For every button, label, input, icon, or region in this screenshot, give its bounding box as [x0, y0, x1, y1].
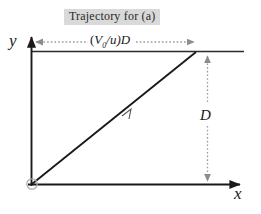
figure-title: Trajectory for (a) — [64, 9, 160, 25]
span-label-distance: D — [121, 32, 130, 47]
trajectory-figure: Trajectory for (a) y x (V0/u)D D — [0, 0, 261, 214]
x-axis-label: x — [234, 185, 242, 202]
span-label-divisor: /u) — [106, 32, 120, 47]
vertical-span-label: D — [199, 106, 212, 125]
horizontal-span-label: (V0/u)D — [88, 33, 132, 50]
y-axis-label: y — [9, 32, 17, 49]
trajectory-line — [32, 52, 196, 184]
